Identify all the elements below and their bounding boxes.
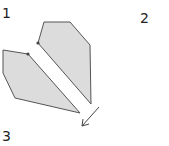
diagram-canvas <box>0 0 169 146</box>
right-shape-vertex-dot <box>36 41 39 44</box>
arrow-icon <box>82 107 99 126</box>
left-shape-vertex-dot <box>26 52 29 55</box>
